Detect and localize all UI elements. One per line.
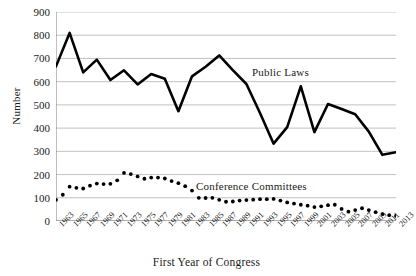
y-tick-label: 200 [20, 169, 50, 180]
y-tick-label: 100 [20, 192, 50, 203]
annotation-conference-committees: Conference Committees [196, 180, 307, 192]
x-tick-label: 2013 [398, 211, 416, 229]
series-public-laws-line [56, 33, 396, 155]
x-axis-tick-labels: 1963196519671969197119731975197719791981… [56, 223, 396, 253]
y-tick-label: 700 [20, 53, 50, 64]
y-tick-label: 600 [20, 76, 50, 87]
y-tick-label: 800 [20, 30, 50, 41]
y-tick-label: 0 [20, 216, 50, 227]
series-conference-committees-markers [56, 171, 396, 218]
y-tick-label: 900 [20, 7, 50, 18]
y-tick-label: 300 [20, 146, 50, 157]
annotation-public-laws: Public Laws [252, 66, 309, 78]
y-tick-label: 500 [20, 99, 50, 110]
y-tick-label: 400 [20, 123, 50, 134]
y-axis-tick-labels: 0100200300400500600700800900 [20, 0, 50, 276]
x-axis-title: First Year of Congress [0, 256, 413, 268]
